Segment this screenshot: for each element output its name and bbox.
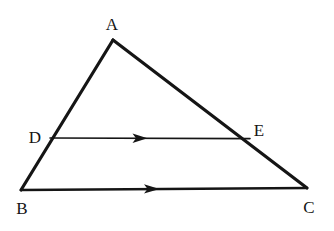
segment-bc [21,188,307,190]
triangle-diagram [0,0,334,231]
vertex-label-a: A [106,16,118,33]
vertex-label-b: B [16,200,28,217]
vertex-label-d: D [29,129,41,146]
segment-ac [113,40,307,188]
segment-de [50,138,250,139]
segment-ab [21,40,113,190]
vertex-label-e: E [254,122,265,139]
vertex-label-c: C [303,199,315,216]
geometry-figure: A B C D E [0,0,334,231]
